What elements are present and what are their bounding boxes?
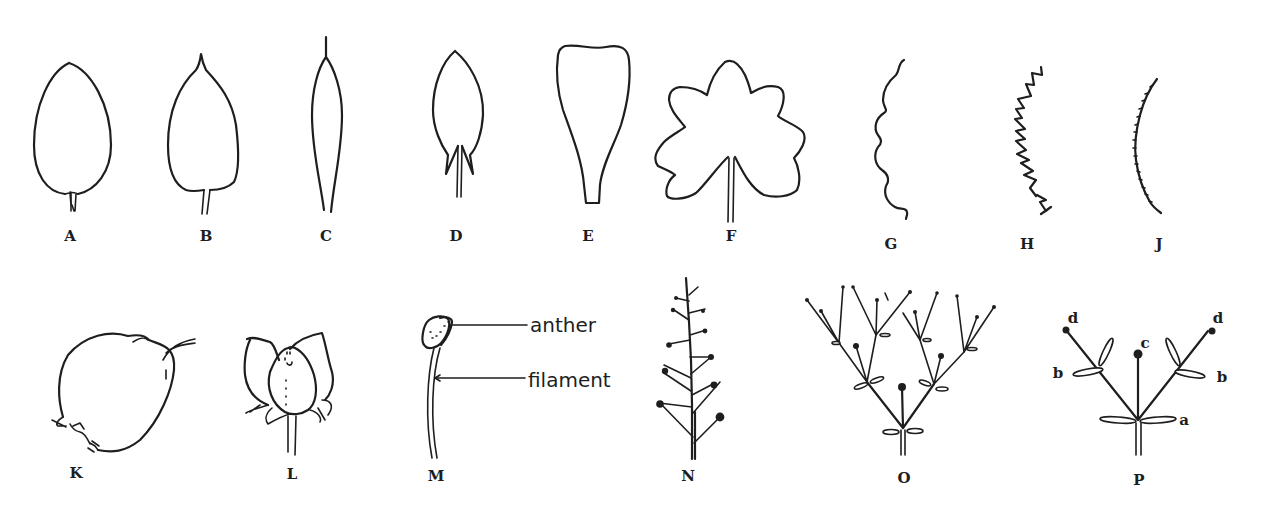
panel-label-k: K [69, 464, 83, 482]
panel-label-m: M [428, 467, 445, 485]
panel-g-crenate-margin: G [875, 60, 907, 253]
panel-d-lobed-base-leaf: D [433, 51, 483, 245]
panel-label-g: G [885, 235, 898, 253]
panel-c-lanceolate-leaf: C [312, 37, 342, 245]
panel-e-spatulate-leaf: E [557, 46, 629, 245]
panel-label-h: H [1020, 235, 1034, 253]
panel-label-p: P [1133, 471, 1144, 489]
part-label-d-left: d [1068, 309, 1079, 327]
panel-label-l: L [287, 465, 298, 483]
callout-anther: anther [530, 313, 597, 337]
panel-o-compound-cyme: O [805, 285, 996, 487]
part-label-c: c [1140, 334, 1149, 352]
panel-m-stamen: anther filament M [422, 313, 610, 485]
panel-label-o: O [897, 469, 910, 487]
panel-label-f: F [726, 227, 737, 245]
panel-label-e: E [582, 227, 593, 245]
panel-l-flower: L [245, 333, 333, 483]
part-label-b-right: b [1217, 368, 1228, 386]
panel-a-ovate-leaf: A [34, 63, 111, 245]
panel-k-fruit: K [52, 334, 195, 482]
panel-n-raceme: N [656, 278, 724, 485]
panel-label-b: B [200, 227, 213, 245]
part-label-d-right: d [1213, 309, 1224, 327]
botanical-figure: A B C D E F G H J [0, 0, 1263, 514]
callout-filament: filament [528, 368, 611, 392]
panel-label-j: J [1153, 235, 1162, 253]
panel-b-acute-leaf: B [168, 54, 238, 245]
panel-label-n: N [681, 467, 695, 485]
panel-j-serrulate-margin: J [1133, 79, 1163, 253]
panel-p-simple-cyme: d b c d b a P [1053, 309, 1228, 489]
panel-label-a: A [63, 227, 76, 245]
panel-label-d: D [449, 227, 462, 245]
part-label-a: a [1179, 411, 1189, 429]
part-label-b-left: b [1053, 364, 1064, 382]
panel-label-c: C [320, 227, 332, 245]
panel-h-serrate-margin: H [1015, 67, 1051, 253]
panel-f-palmate-leaf: F [655, 61, 804, 245]
